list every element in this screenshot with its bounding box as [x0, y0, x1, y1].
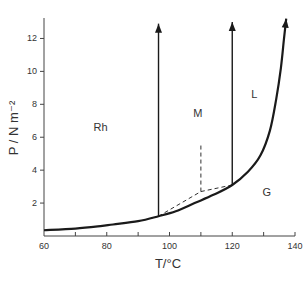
region-label-g: G	[262, 186, 271, 198]
x-tick-label: 120	[225, 241, 240, 251]
y-tick-label: 2	[32, 198, 37, 208]
region-label-l: L	[251, 88, 257, 100]
y-ticks: 24681012	[27, 33, 44, 208]
series-group	[44, 19, 289, 231]
arrowhead-icon	[229, 22, 236, 31]
arrowhead-icon	[155, 24, 162, 33]
region-label-m: M	[193, 107, 202, 119]
region-labels: RhMLG	[93, 88, 271, 199]
y-tick-label: 10	[27, 66, 37, 76]
series-line-3	[159, 185, 233, 216]
y-tick-label: 4	[32, 165, 37, 175]
y-axis-title: P / N m⁻²	[6, 100, 21, 155]
y-tick-label: 8	[32, 99, 37, 109]
phase-diagram: 6080100120140 24681012 RhMLG T/°C P / N …	[0, 0, 308, 281]
axes: 6080100120140 24681012	[27, 18, 303, 251]
x-tick-label: 140	[287, 241, 302, 251]
x-tick-label: 100	[162, 241, 177, 251]
x-tick-label: 80	[102, 241, 112, 251]
y-tick-label: 12	[27, 33, 37, 43]
x-ticks: 6080100120140	[39, 232, 303, 251]
x-tick-label: 60	[39, 241, 49, 251]
y-tick-label: 6	[32, 132, 37, 142]
series-line-0	[44, 19, 286, 231]
x-axis-title: T/°C	[155, 256, 181, 271]
region-label-rh: Rh	[93, 121, 107, 133]
